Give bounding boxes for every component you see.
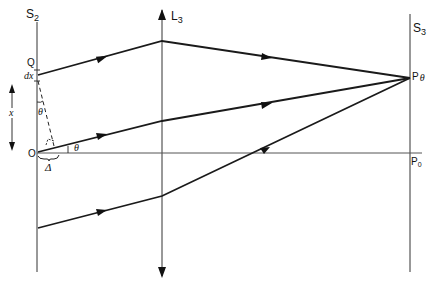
point-p0-label: P0 xyxy=(411,156,422,168)
x-label: x xyxy=(8,107,14,118)
ray-middle-right-arrow-icon xyxy=(261,102,272,109)
screen-s2-label: S2 xyxy=(26,7,39,23)
right-angle-marker xyxy=(46,139,54,145)
ray-middle xyxy=(38,78,410,152)
dx-label: dx xyxy=(24,70,34,81)
theta-upper-label: θ xyxy=(38,106,43,117)
lens-l3-label: L3 xyxy=(171,9,183,25)
theta-lower-label: θ xyxy=(74,142,79,153)
lens-bottom-arrow-icon xyxy=(158,267,166,278)
x-down-arrow-icon xyxy=(9,142,15,151)
delta-label: Δ xyxy=(44,161,51,173)
point-q-label: Q xyxy=(27,57,35,68)
x-up-arrow-icon xyxy=(9,84,15,93)
ray-top xyxy=(38,41,410,78)
theta-upper-arc xyxy=(37,101,43,102)
ray-bottom-arrow-icon xyxy=(96,209,107,216)
diffraction-diagram: S2 L3 S3 Q dx θ O θ Δ x Pθ P0 xyxy=(0,0,432,285)
point-p-theta-label: Pθ xyxy=(412,71,425,83)
ray-middle-arrow-icon xyxy=(96,133,107,140)
lens-top-arrow-icon xyxy=(158,9,166,20)
screen-s3-label: S3 xyxy=(413,21,426,37)
point-o-label: O xyxy=(28,148,36,159)
ray-top-arrow-icon xyxy=(96,56,108,63)
